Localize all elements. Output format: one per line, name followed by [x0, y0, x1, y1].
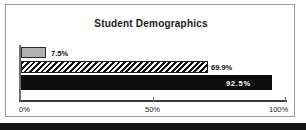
- x-axis-label-0: 0%: [19, 105, 30, 114]
- x-axis-tick-0: [20, 97, 21, 102]
- chart-screenshot: Student Demographics 0% 50% 100% 7.5% 69…: [0, 0, 306, 130]
- bar-series-2: [21, 61, 208, 73]
- x-axis-label-100: 100%: [269, 105, 288, 114]
- bar-series-1: [21, 47, 46, 58]
- bottom-band: [0, 123, 306, 130]
- chart-frame: Student Demographics 0% 50% 100% 7.5% 69…: [5, 4, 295, 117]
- x-axis-label-50: 50%: [145, 105, 160, 114]
- plot-area: 0% 50% 100% 7.5% 69.9% 92.5%: [19, 45, 287, 107]
- x-axis-tick-50: [153, 97, 154, 102]
- x-axis-tick-100: [285, 97, 286, 102]
- chart-title: Student Demographics: [6, 18, 296, 29]
- bar-label-series-1: 7.5%: [51, 49, 68, 58]
- bar-label-series-3: 92.5%: [226, 79, 251, 88]
- bar-label-series-2: 69.9%: [211, 63, 232, 72]
